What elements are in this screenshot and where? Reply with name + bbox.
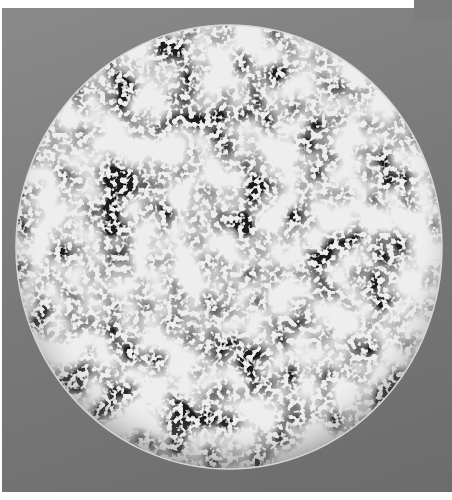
- patterned-sphere: [0, 0, 452, 500]
- sphere-shading: [16, 25, 442, 469]
